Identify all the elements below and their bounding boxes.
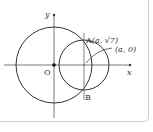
point-b-label: B <box>85 93 91 102</box>
y-axis-arrow-icon <box>53 14 55 16</box>
geometry-diagram: y x O A(a, √7) (a, 0) B <box>0 0 153 132</box>
origin-point <box>52 63 56 67</box>
y-axis-label: y <box>44 10 50 19</box>
leader-line <box>86 48 112 63</box>
x-axis-label: x <box>127 68 132 77</box>
x-axis-arrow-icon <box>129 64 131 66</box>
origin-label: O <box>44 68 51 77</box>
point-a-label: A(a, √7) <box>85 36 118 45</box>
center-coords-label: (a, 0) <box>115 45 136 54</box>
center-point <box>83 64 85 66</box>
